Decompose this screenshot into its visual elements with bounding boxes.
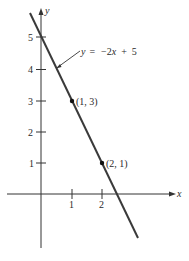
- y-tick-label-1: 1: [29, 158, 34, 169]
- y-tick-label-4: 4: [28, 64, 33, 75]
- x-tick-label-2: 2: [99, 199, 104, 210]
- x-tick-label-1: 1: [69, 199, 74, 210]
- y-tick-label-3: 3: [28, 96, 33, 107]
- point-2-1: [100, 161, 104, 165]
- x-axis-label: x: [176, 188, 182, 199]
- y-tick-label-5: 5: [28, 32, 33, 43]
- y-axis-label: y: [44, 5, 50, 16]
- point-1-3: [70, 99, 74, 103]
- y-axis-arrow-icon: [39, 8, 44, 15]
- annotation-leader: [58, 51, 80, 67]
- y-tick-label-2: 2: [28, 127, 33, 138]
- point-2-1-label: (2, 1): [106, 158, 128, 170]
- point-1-3-label: (1, 3): [76, 96, 98, 108]
- coordinate-plane: x y 5 4 3 2 1 1 2 y=−2x+5 (1, 3) (2, 1): [0, 0, 189, 261]
- equation-label: y=−2x+5: [80, 46, 137, 57]
- x-axis-arrow-icon: [169, 192, 176, 197]
